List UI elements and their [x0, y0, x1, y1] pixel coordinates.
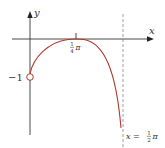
x-axis-arrow-icon — [147, 36, 154, 41]
y-axis-label: y — [33, 7, 40, 18]
graph: y x 1 4 π −1 x = 1 2 π — [0, 0, 165, 148]
asymptote-label: x = 1 2 π — [126, 130, 159, 143]
open-circle-marker — [27, 74, 34, 81]
svg-text:4: 4 — [70, 48, 74, 54]
svg-text:x =: x = — [126, 132, 140, 141]
svg-text:π: π — [75, 43, 82, 52]
tick-label-quarter-pi: 1 4 π — [70, 41, 82, 54]
svg-text:π: π — [152, 132, 159, 141]
svg-text:2: 2 — [147, 137, 151, 143]
y-intercept-label: −1 — [8, 72, 23, 83]
x-axis-label: x — [149, 25, 155, 36]
y-axis-arrow-icon — [27, 11, 32, 18]
function-curve — [30, 39, 121, 128]
svg-text:1: 1 — [70, 41, 74, 47]
svg-text:1: 1 — [147, 130, 151, 136]
